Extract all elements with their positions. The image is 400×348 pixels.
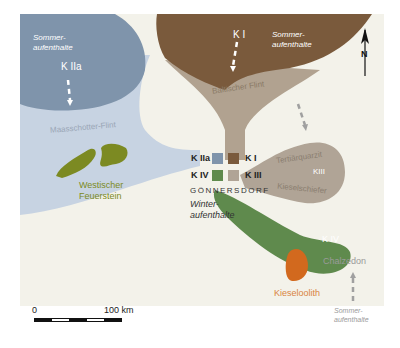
legend-k2a-label: K IIa [191, 154, 210, 163]
k2a-code-label: K IIa [61, 62, 82, 72]
westischer-label: Westischer Feuerstein [79, 180, 123, 202]
map-canvas: Sommer- aufenthalte K IIa Maasschotter-F… [0, 0, 400, 348]
site-label: GÖNNERSDORF [190, 187, 270, 195]
legend-k4-label: K IV [191, 171, 209, 180]
kieseloolith-label: Kieseloolith [274, 289, 320, 298]
legend-k3-label: K III [245, 171, 262, 180]
k3-lobe-label: KIII [313, 168, 325, 176]
scale-bar [34, 318, 122, 322]
legend-swatch-k1 [228, 153, 239, 164]
k1-code-label: K I [233, 30, 245, 40]
legend-swatch-k2a [212, 153, 223, 164]
scale-start-label: 0 [32, 306, 37, 315]
legend-k1-label: K I [245, 154, 257, 163]
k1-summer-label: Sommer- aufenthalte [272, 30, 312, 50]
k2a-summer-label: Sommer- aufenthalte [33, 33, 73, 53]
k4-summer-label: Sommer- aufenthalte [334, 306, 369, 324]
chalzedon-label: Chalzedon [323, 257, 366, 266]
north-label: N [361, 50, 368, 59]
legend-swatch-k4 [212, 170, 223, 181]
scale-end-label: 100 km [104, 306, 134, 315]
legend-swatch-k3 [228, 170, 239, 181]
k4-lobe-label: K IV [322, 235, 339, 244]
winter-label: Winter- aufenthalte [190, 199, 235, 221]
